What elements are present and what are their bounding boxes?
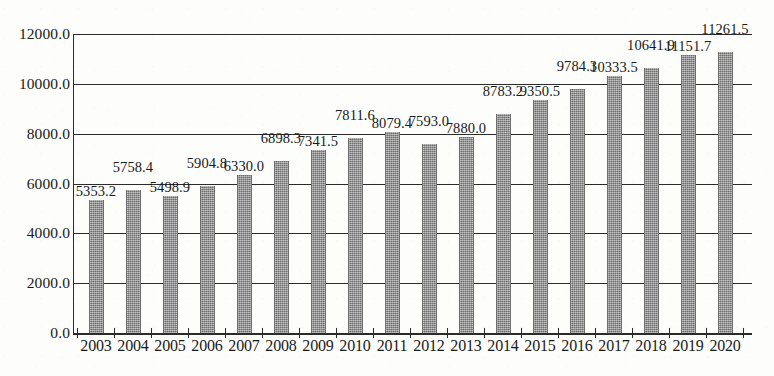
bar[interactable] [459, 137, 474, 333]
x-axis-tick-label: 2019 [672, 338, 703, 354]
bar[interactable] [644, 68, 659, 333]
bar-value-label: 5498.9 [150, 180, 190, 195]
x-axis-tick [484, 328, 485, 338]
y-axis-tick-label: 0.0 [0, 325, 70, 341]
y-axis: 0.02000.04000.06000.08000.010000.012000.… [0, 0, 70, 376]
y-axis-tick-label: 4000.0 [0, 226, 70, 242]
x-axis-tick-label: 2004 [117, 338, 148, 354]
bar-value-label: 11261.5 [701, 22, 748, 37]
bar-chart: 0.02000.04000.06000.08000.010000.012000.… [0, 0, 774, 376]
bar-value-label: 7811.6 [335, 108, 375, 123]
bar[interactable] [718, 52, 733, 333]
y-axis-tick-label: 8000.0 [0, 126, 70, 142]
bar-value-label: 8079.4 [372, 116, 412, 131]
x-axis-tick [595, 328, 596, 338]
bar[interactable] [200, 186, 215, 333]
bar-value-label: 6898.3 [261, 131, 301, 146]
x-axis-tick-label: 2007 [228, 338, 259, 354]
x-axis-tick [706, 328, 707, 338]
x-axis-tick [225, 328, 226, 338]
bar-value-label: 7880.0 [446, 121, 486, 136]
bar[interactable] [607, 76, 622, 333]
bar-value-label: 9350.5 [520, 84, 560, 99]
x-axis-tick [299, 328, 300, 338]
x-axis: 2003200420052006200720082009201020112012… [73, 338, 752, 368]
bar[interactable] [126, 190, 141, 333]
bar[interactable] [496, 114, 511, 333]
bar-value-label: 10333.5 [590, 60, 638, 75]
gridline [73, 34, 752, 35]
x-axis-tick [114, 328, 115, 338]
x-axis-tick-label: 2006 [191, 338, 222, 354]
x-axis-tick [743, 328, 744, 338]
bar[interactable] [311, 150, 326, 333]
bar[interactable] [237, 175, 252, 333]
bar-value-label: 8783.2 [483, 84, 523, 99]
bar-value-label: 7593.0 [409, 114, 449, 129]
x-axis-tick-label: 2016 [561, 338, 592, 354]
x-axis-tick [188, 328, 189, 338]
x-axis-tick [447, 328, 448, 338]
x-axis-tick-label: 2013 [450, 338, 481, 354]
x-axis-tick [558, 328, 559, 338]
bar-value-label: 5904.8 [187, 156, 227, 171]
bar[interactable] [348, 138, 363, 333]
x-axis-tick [632, 328, 633, 338]
bar[interactable] [274, 161, 289, 333]
bar-value-label: 5353.2 [76, 184, 116, 199]
x-axis-tick [336, 328, 337, 338]
x-axis-tick-label: 2015 [524, 338, 555, 354]
bar[interactable] [385, 132, 400, 333]
y-axis-tick-label: 12000.0 [0, 26, 70, 42]
bar[interactable] [422, 144, 437, 333]
gridline [73, 333, 752, 335]
x-axis-tick-label: 2017 [598, 338, 629, 354]
x-axis-tick-label: 2003 [80, 338, 111, 354]
y-axis-tick-label: 10000.0 [0, 76, 70, 92]
x-axis-tick-label: 2009 [302, 338, 333, 354]
x-axis-tick-label: 2008 [265, 338, 296, 354]
bar-value-label: 11151.7 [665, 39, 712, 54]
bar[interactable] [163, 196, 178, 333]
bar[interactable] [533, 100, 548, 333]
bar-value-label: 5758.4 [113, 160, 153, 175]
x-axis-tick [373, 328, 374, 338]
bar[interactable] [89, 200, 104, 333]
x-axis-tick-label: 2014 [487, 338, 518, 354]
x-axis-tick [262, 328, 263, 338]
x-axis-tick [77, 328, 78, 338]
y-axis-tick-label: 6000.0 [0, 176, 70, 192]
bar[interactable] [681, 55, 696, 333]
x-axis-tick [151, 328, 152, 338]
x-axis-tick-label: 2020 [709, 338, 740, 354]
x-axis-tick-label: 2011 [377, 338, 408, 354]
x-axis-tick-label: 2010 [339, 338, 370, 354]
x-axis-tick [410, 328, 411, 338]
x-axis-tick [521, 328, 522, 338]
bar-value-label: 7341.5 [298, 134, 338, 149]
x-axis-tick [669, 328, 670, 338]
x-axis-tick-label: 2005 [154, 338, 185, 354]
bar-value-label: 6330.0 [224, 159, 264, 174]
x-axis-tick-label: 2012 [413, 338, 444, 354]
bar[interactable] [570, 89, 585, 333]
y-axis-tick-label: 2000.0 [0, 275, 70, 291]
x-axis-tick-label: 2018 [635, 338, 666, 354]
